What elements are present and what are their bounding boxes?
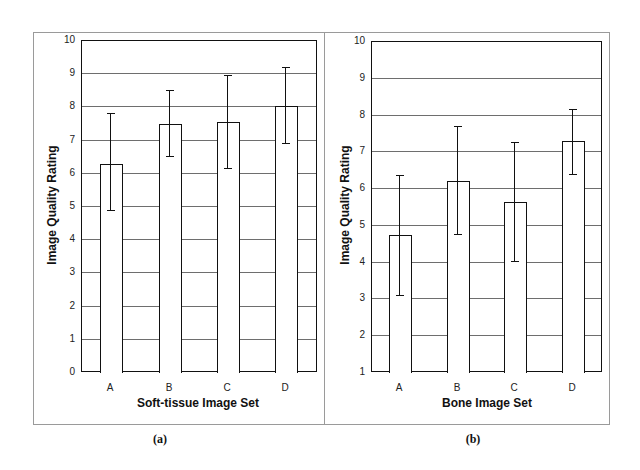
error-bar-cap: [569, 174, 577, 175]
y-tick-label: 3: [345, 293, 365, 303]
error-bar-cap: [396, 295, 404, 296]
error-bar-cap: [569, 109, 577, 110]
bar-d: [275, 106, 298, 373]
error-bar: [572, 110, 573, 174]
y-tick-label: 9: [55, 68, 75, 78]
error-bar-cap: [107, 113, 115, 114]
gridline: [372, 115, 601, 116]
y-tick-label: 10: [345, 36, 365, 46]
y-tick-label: 9: [345, 73, 365, 83]
error-bar: [110, 114, 111, 210]
x-tick-label: C: [217, 382, 237, 393]
x-tick-label: B: [447, 382, 467, 393]
error-bar: [285, 68, 286, 144]
error-bar-cap: [282, 143, 290, 144]
y-tick-label: 10: [55, 35, 75, 45]
error-bar-cap: [454, 234, 462, 235]
x-tick-label: A: [389, 382, 409, 393]
panel-a-caption: (a): [140, 432, 180, 447]
y-tick-label: 8: [55, 101, 75, 111]
error-bar-cap: [396, 175, 404, 176]
error-bar-cap: [511, 142, 519, 143]
error-bar-cap: [166, 156, 174, 157]
y-tick-label: 0: [55, 367, 75, 377]
error-bar-cap: [224, 75, 232, 76]
error-bar: [399, 176, 400, 296]
gridline: [372, 78, 601, 79]
bar-b: [159, 124, 182, 373]
error-bar: [457, 127, 458, 235]
y-tick-label: 2: [55, 301, 75, 311]
error-bar: [169, 91, 170, 157]
y-tick-label: 8: [345, 110, 365, 120]
error-bar-cap: [166, 90, 174, 91]
panel-a-y-axis-label: Image Quality Rating: [45, 125, 59, 285]
x-tick-label: B: [159, 382, 179, 393]
panel-b-y-axis-label: Image Quality Rating: [338, 125, 352, 285]
y-tick-label: 1: [345, 367, 365, 377]
error-bar-cap: [224, 168, 232, 169]
error-bar: [514, 142, 515, 262]
x-tick-label: D: [275, 382, 295, 393]
x-tick-label: A: [100, 382, 120, 393]
panel-b-plot-area: [371, 41, 602, 372]
y-tick-label: 2: [345, 330, 365, 340]
panel-b-x-axis-label: Bone Image Set: [387, 396, 587, 410]
error-bar-cap: [454, 126, 462, 127]
error-bar: [227, 76, 228, 169]
error-bar-cap: [282, 67, 290, 68]
gridline: [82, 73, 316, 74]
x-tick-label: C: [504, 382, 524, 393]
panel-a-x-axis-label: Soft-tissue Image Set: [98, 396, 298, 410]
error-bar-cap: [511, 261, 519, 262]
panel-b-caption: (b): [453, 432, 493, 447]
y-tick-label: 1: [55, 334, 75, 344]
bar-d: [562, 141, 585, 373]
error-bar-cap: [107, 210, 115, 211]
panel-a-plot-area: [81, 40, 317, 372]
x-tick-label: D: [562, 382, 582, 393]
